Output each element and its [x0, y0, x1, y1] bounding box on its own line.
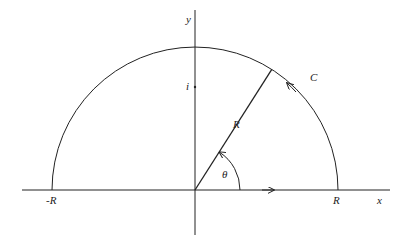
y-axis-label: y — [186, 14, 191, 25]
contour-label: C — [310, 72, 317, 83]
i-mark-dot — [194, 86, 196, 88]
diagram-graphics — [0, 0, 407, 245]
x-axis-label: x — [377, 195, 382, 206]
radius-label: R — [233, 119, 240, 130]
pos-r-label: R — [333, 195, 340, 206]
angle-label: θ — [222, 169, 227, 180]
contour-diagram: y i -R R x R C θ — [0, 0, 407, 245]
i-mark-label: i — [186, 81, 189, 92]
neg-r-label: -R — [46, 195, 56, 206]
